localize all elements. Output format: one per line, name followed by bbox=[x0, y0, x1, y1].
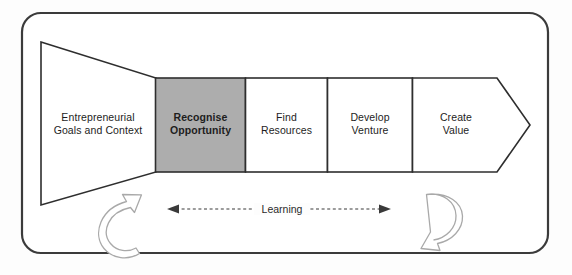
stage-box-recognise-opportunity[interactable] bbox=[156, 78, 246, 172]
stage-box-find-resources[interactable] bbox=[246, 78, 328, 172]
entrepreneurial-process-figure: THE OPPORTUNITY Entrepreneurial Go bbox=[0, 0, 572, 275]
process-diagram-svg bbox=[0, 0, 572, 275]
stage-box-develop-venture[interactable] bbox=[328, 78, 413, 172]
